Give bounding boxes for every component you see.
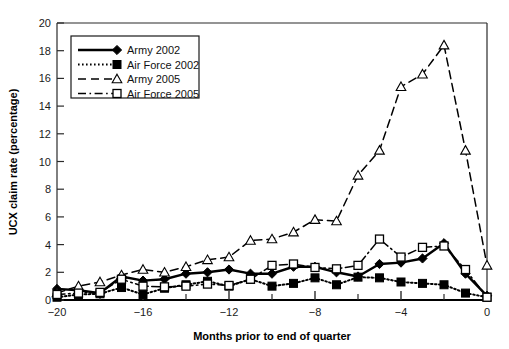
data-point (483, 293, 491, 301)
legend-item-label: Army 2005 (127, 73, 180, 85)
data-point (96, 288, 104, 296)
data-point (354, 261, 362, 269)
data-point (139, 282, 147, 290)
y-tick-label: 10 (39, 156, 51, 168)
data-point (333, 265, 341, 273)
y-tick-label: 12 (39, 128, 51, 140)
data-point (419, 279, 427, 287)
data-point (311, 274, 319, 282)
data-point (225, 281, 233, 289)
data-point (397, 253, 405, 261)
data-point (139, 290, 147, 298)
y-axis-title: UCX claim rate (percentage) (7, 88, 19, 235)
data-point (268, 261, 276, 269)
data-point (376, 235, 384, 243)
x-tick-label: −8 (309, 306, 322, 318)
y-tick-label: 2 (45, 266, 51, 278)
data-point (290, 260, 298, 268)
data-point (397, 278, 405, 286)
x-tick-label: 0 (484, 306, 490, 318)
data-point (462, 266, 470, 274)
legend-marker-swatch (113, 61, 121, 69)
data-point (311, 263, 319, 271)
y-tick-label: 6 (45, 211, 51, 223)
data-point (462, 289, 470, 297)
data-point (376, 274, 384, 282)
legend-item-label: Air Force 2005 (127, 88, 199, 100)
x-tick-label: −12 (220, 306, 239, 318)
chart-legend: Army 2002Air Force 2002Army 2005Air Forc… (71, 36, 199, 100)
data-point (75, 289, 83, 297)
legend-item-label: Army 2002 (127, 44, 180, 56)
y-tick-label: 0 (45, 294, 51, 306)
data-point (118, 275, 126, 283)
legend-item-label: Air Force 2002 (127, 59, 199, 71)
data-point (161, 283, 169, 291)
data-point (440, 242, 448, 250)
data-point (53, 290, 61, 298)
y-tick-label: 8 (45, 183, 51, 195)
data-point (419, 243, 427, 251)
data-point (182, 282, 190, 290)
data-point (268, 282, 276, 290)
legend-marker-swatch (113, 90, 121, 98)
y-tick-label: 14 (39, 100, 51, 112)
x-tick-label: −16 (134, 306, 153, 318)
x-tick-label: −20 (48, 306, 67, 318)
data-point (354, 273, 362, 281)
y-tick-label: 18 (39, 45, 51, 57)
y-tick-label: 4 (45, 239, 51, 251)
data-point (118, 284, 126, 292)
y-tick-label: 16 (39, 72, 51, 84)
x-axis-title: Months prior to end of quarter (193, 330, 351, 342)
data-point (440, 281, 448, 289)
x-tick-label: −4 (395, 306, 408, 318)
data-point (333, 281, 341, 289)
data-point (290, 279, 298, 287)
data-point (204, 280, 212, 288)
y-tick-label: 20 (39, 17, 51, 29)
ucx-claim-rate-line-chart: 02468101214161820 −20−16−12−8−40 UCX cla… (0, 0, 509, 349)
chart-figure: 02468101214161820 −20−16−12−8−40 UCX cla… (0, 0, 509, 349)
data-point (247, 275, 255, 283)
